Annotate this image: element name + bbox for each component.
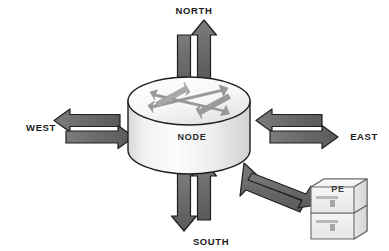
north-outbound-arrow [192, 20, 217, 82]
pe-device-box-upper: PE [311, 179, 367, 213]
east-arrow-group: EAST [256, 109, 378, 149]
node-label: NODE [178, 132, 207, 142]
pe-upper-slot [316, 196, 338, 199]
pe-upper-port [330, 200, 335, 207]
east-label: EAST [350, 131, 378, 142]
node-cylinder: NODE [128, 77, 250, 174]
west-arrow-group: WEST [26, 109, 134, 149]
node-direction-diagram: NORTH WEST EAST SOUTH [0, 0, 389, 251]
south-outbound-arrow [172, 173, 197, 231]
north-label: NORTH [176, 5, 213, 16]
pe-lower-port [330, 224, 335, 231]
pe-lower-slot [316, 220, 338, 223]
diagram-canvas: NORTH WEST EAST SOUTH [0, 0, 389, 251]
west-inbound-arrow [66, 126, 134, 149]
east-inbound-arrow [256, 109, 322, 132]
south-label: SOUTH [193, 236, 229, 247]
node-cylinder-top [128, 77, 250, 125]
pe-arrow-group [240, 163, 317, 212]
east-outbound-arrow [270, 126, 338, 149]
pe-label: PE [331, 184, 344, 194]
west-label: WEST [26, 122, 56, 133]
pe-device-stack: PE [311, 179, 367, 239]
west-outbound-arrow [54, 109, 120, 132]
